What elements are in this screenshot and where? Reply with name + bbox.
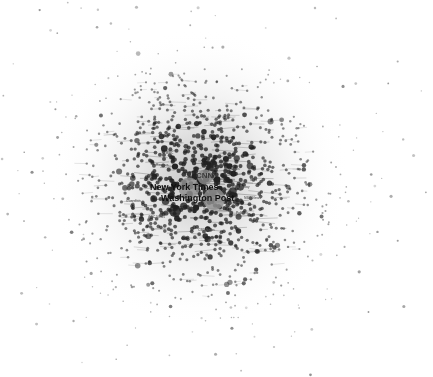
network-graph-visualization: Fox NewsUSA TodayNBC NewsReutersGuardian… (0, 0, 433, 377)
graph-canvas (0, 0, 433, 377)
